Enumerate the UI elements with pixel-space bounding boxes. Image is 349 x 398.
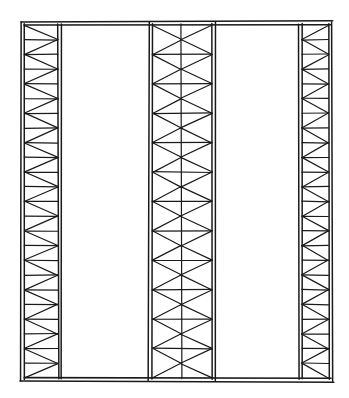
- diagonal: [302, 142, 328, 157]
- diagonal: [181, 69, 212, 84]
- diagonal: [152, 216, 181, 231]
- diagonal: [302, 245, 328, 260]
- diagonal: [152, 25, 181, 39]
- rung: [302, 201, 329, 202]
- diagonal: [302, 289, 329, 304]
- diagonal: [25, 54, 59, 69]
- diagonal: [24, 69, 57, 84]
- diagonal: [181, 113, 212, 127]
- diagonal: [302, 349, 329, 363]
- middle-truss: [148, 22, 215, 381]
- diagonal: [181, 55, 212, 70]
- left-rail: [148, 22, 149, 381]
- inner-rail-outer: [299, 24, 300, 379]
- diagonal: [152, 260, 181, 274]
- frame-bottom-line: [20, 381, 334, 382]
- diagonal: [25, 187, 58, 201]
- diagonal: [24, 319, 58, 334]
- diagonal: [181, 25, 212, 40]
- truss-frame-drawing: Hand-drawn line sketch of a rectangular …: [0, 0, 349, 398]
- diagonal: [25, 290, 59, 305]
- diagonal: [302, 231, 329, 246]
- diagonal: [24, 84, 58, 98]
- diagonal: [25, 260, 58, 275]
- diagonal: [181, 320, 212, 335]
- diagonal: [302, 216, 329, 231]
- outer-rail: [21, 22, 22, 381]
- diagonal: [24, 172, 57, 187]
- diagonal: [24, 216, 58, 231]
- diagonal: [25, 364, 58, 378]
- truss-frame-svg: [0, 0, 349, 398]
- diagonal: [153, 143, 181, 157]
- diagonal: [25, 128, 58, 143]
- diagonal: [181, 364, 212, 378]
- diagonal: [181, 304, 212, 319]
- diagonal: [24, 246, 57, 260]
- diagonal: [25, 231, 58, 245]
- rung: [152, 348, 212, 349]
- diagonal: [153, 158, 181, 173]
- diagonal: [302, 334, 329, 349]
- mid-rung: [302, 304, 329, 305]
- diagonal: [153, 334, 181, 348]
- diagonal: [152, 246, 180, 260]
- diagonal: [152, 275, 181, 290]
- diagonal: [302, 84, 328, 98]
- diagonal: [181, 157, 212, 171]
- diagonal: [181, 172, 212, 187]
- diagonal: [302, 157, 328, 171]
- diagonal: [25, 201, 58, 216]
- diagonal: [181, 260, 213, 275]
- diagonal: [181, 99, 212, 114]
- diagonal: [302, 275, 329, 289]
- mid-rung: [302, 186, 329, 187]
- diagonal: [152, 319, 181, 334]
- diagonal: [302, 319, 329, 334]
- diagonal: [302, 363, 329, 378]
- diagonal: [153, 172, 181, 187]
- diagonal: [181, 334, 212, 348]
- diagonal: [153, 187, 181, 202]
- outer-rail: [332, 22, 333, 381]
- mid-rung: [302, 40, 329, 41]
- diagonal: [181, 231, 212, 246]
- diagonal: [302, 98, 328, 112]
- diagonal: [302, 40, 329, 55]
- diagonal: [153, 305, 181, 320]
- diagonal: [302, 113, 328, 128]
- diagonal: [25, 275, 58, 290]
- diagonal: [24, 25, 58, 39]
- rung: [24, 54, 58, 55]
- diagonal: [181, 349, 212, 363]
- diagonal: [153, 231, 181, 246]
- frame-bottom-inner-line: [24, 378, 331, 379]
- diagonal: [302, 172, 328, 187]
- diagonal: [25, 334, 58, 349]
- diagonal: [152, 40, 181, 55]
- rung: [152, 172, 212, 173]
- diagonal: [153, 290, 181, 304]
- diagonal: [152, 201, 181, 216]
- diagonal: [25, 98, 58, 113]
- diagonal: [152, 128, 180, 143]
- diagonal: [302, 128, 329, 143]
- diagonal: [152, 55, 181, 70]
- diagonal: [181, 275, 212, 290]
- diagonal: [181, 40, 212, 55]
- diagonal: [24, 349, 58, 364]
- frame-top-line: [21, 21, 333, 22]
- diagonal: [153, 99, 181, 114]
- rung: [302, 289, 329, 290]
- left-truss: [21, 22, 62, 381]
- diagonal: [302, 201, 329, 216]
- diagonal: [181, 128, 212, 143]
- diagonal: [152, 363, 181, 378]
- diagonal: [302, 304, 329, 319]
- diagonal: [302, 187, 329, 202]
- diagonal: [181, 245, 212, 260]
- diagonal: [25, 113, 58, 128]
- diagonal: [302, 260, 329, 275]
- diagonal: [181, 187, 212, 202]
- diagonal: [181, 142, 212, 157]
